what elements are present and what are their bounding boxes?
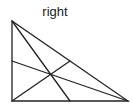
median-from-bottom-left: [12, 61, 70, 101]
median-from-bottom-right: [12, 61, 128, 101]
median-from-top: [12, 21, 70, 101]
right-triangle-diagram: [0, 0, 133, 104]
